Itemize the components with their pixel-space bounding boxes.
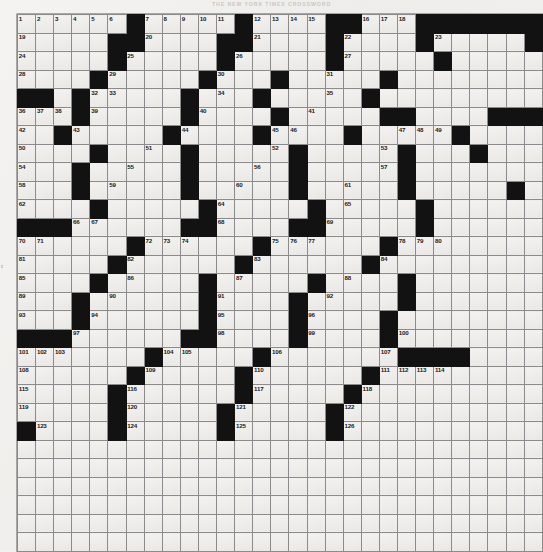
grid-cell[interactable]	[488, 459, 506, 478]
grid-cell[interactable]	[144, 292, 162, 311]
grid-cell[interactable]	[488, 329, 506, 348]
grid-cell[interactable]: 96	[307, 311, 325, 330]
grid-cell[interactable]: 77	[307, 237, 325, 256]
grid-cell[interactable]	[271, 89, 289, 108]
grid-cell[interactable]	[379, 533, 397, 552]
grid-cell[interactable]	[235, 459, 253, 478]
grid-cell[interactable]: 89	[18, 292, 36, 311]
grid-cell[interactable]	[506, 126, 524, 145]
grid-cell[interactable]	[506, 533, 524, 552]
grid-cell[interactable]	[434, 274, 452, 293]
grid-cell[interactable]	[506, 403, 524, 422]
grid-cell[interactable]	[488, 89, 506, 108]
grid-cell[interactable]	[90, 163, 108, 182]
grid-cell[interactable]	[488, 163, 506, 182]
grid-cell[interactable]	[488, 237, 506, 256]
grid-cell[interactable]	[434, 403, 452, 422]
grid-cell[interactable]	[253, 218, 271, 237]
grid-cell[interactable]	[36, 459, 54, 478]
grid-cell[interactable]	[470, 255, 488, 274]
grid-cell[interactable]	[506, 218, 524, 237]
grid-cell[interactable]	[325, 440, 343, 459]
grid-cell[interactable]	[271, 255, 289, 274]
grid-cell[interactable]	[488, 311, 506, 330]
grid-cell[interactable]	[289, 89, 307, 108]
grid-cell[interactable]	[235, 70, 253, 89]
grid-cell[interactable]	[289, 255, 307, 274]
grid-cell[interactable]	[524, 311, 542, 330]
grid-cell[interactable]	[488, 403, 506, 422]
grid-cell[interactable]	[524, 496, 542, 515]
grid-cell[interactable]	[452, 70, 470, 89]
grid-cell[interactable]	[144, 255, 162, 274]
grid-cell[interactable]	[162, 200, 180, 219]
grid-cell[interactable]: 105	[180, 348, 198, 367]
grid-cell[interactable]	[470, 440, 488, 459]
grid-cell[interactable]	[72, 200, 90, 219]
grid-cell[interactable]: 31	[325, 70, 343, 89]
grid-cell[interactable]	[271, 52, 289, 71]
grid-cell[interactable]	[36, 533, 54, 552]
grid-cell[interactable]: 27	[343, 52, 361, 71]
grid-cell[interactable]	[524, 459, 542, 478]
grid-cell[interactable]: 93	[18, 311, 36, 330]
grid-cell[interactable]: 100	[397, 329, 415, 348]
grid-cell[interactable]	[253, 274, 271, 293]
grid-cell[interactable]	[434, 514, 452, 533]
grid-cell[interactable]	[108, 440, 126, 459]
grid-cell[interactable]	[36, 70, 54, 89]
grid-cell[interactable]	[343, 366, 361, 385]
grid-cell[interactable]	[108, 144, 126, 163]
grid-cell[interactable]	[162, 311, 180, 330]
grid-cell[interactable]	[108, 311, 126, 330]
grid-cell[interactable]: 19	[18, 33, 36, 52]
grid-cell[interactable]	[126, 477, 144, 496]
grid-cell[interactable]	[361, 181, 379, 200]
grid-cell[interactable]	[452, 477, 470, 496]
grid-cell[interactable]	[54, 292, 72, 311]
grid-cell[interactable]	[379, 514, 397, 533]
grid-cell[interactable]	[198, 422, 216, 441]
grid-cell[interactable]	[488, 514, 506, 533]
grid-cell[interactable]	[144, 181, 162, 200]
grid-cell[interactable]	[36, 440, 54, 459]
grid-cell[interactable]	[126, 329, 144, 348]
grid-cell[interactable]	[524, 274, 542, 293]
grid-cell[interactable]	[470, 200, 488, 219]
grid-cell[interactable]	[198, 348, 216, 367]
grid-cell[interactable]	[343, 163, 361, 182]
grid-cell[interactable]	[289, 477, 307, 496]
grid-cell[interactable]	[343, 311, 361, 330]
grid-cell[interactable]	[416, 311, 434, 330]
grid-cell[interactable]	[361, 403, 379, 422]
grid-cell[interactable]	[54, 181, 72, 200]
grid-cell[interactable]: 101	[18, 348, 36, 367]
grid-cell[interactable]	[253, 496, 271, 515]
grid-cell[interactable]	[434, 163, 452, 182]
grid-cell[interactable]	[271, 181, 289, 200]
grid-cell[interactable]	[108, 533, 126, 552]
grid-cell[interactable]	[397, 496, 415, 515]
grid-cell[interactable]	[235, 126, 253, 145]
grid-cell[interactable]	[162, 292, 180, 311]
grid-cell[interactable]	[72, 459, 90, 478]
grid-cell[interactable]	[488, 200, 506, 219]
grid-cell[interactable]: 64	[217, 200, 235, 219]
grid-cell[interactable]	[162, 329, 180, 348]
grid-cell[interactable]	[488, 33, 506, 52]
grid-cell[interactable]: 51	[144, 144, 162, 163]
grid-cell[interactable]	[18, 459, 36, 478]
grid-cell[interactable]	[144, 126, 162, 145]
grid-cell[interactable]	[434, 496, 452, 515]
grid-cell[interactable]	[54, 496, 72, 515]
grid-cell[interactable]: 13	[271, 15, 289, 34]
grid-cell[interactable]	[235, 200, 253, 219]
grid-cell[interactable]	[144, 422, 162, 441]
grid-cell[interactable]	[524, 237, 542, 256]
grid-cell[interactable]	[452, 89, 470, 108]
grid-cell[interactable]	[307, 126, 325, 145]
grid-cell[interactable]	[452, 200, 470, 219]
grid-cell[interactable]	[90, 422, 108, 441]
grid-cell[interactable]: 5	[90, 15, 108, 34]
grid-cell[interactable]	[397, 422, 415, 441]
